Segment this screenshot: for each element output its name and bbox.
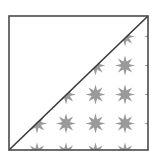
star-icon — [115, 114, 135, 134]
star-icon — [86, 114, 106, 134]
star-icon — [56, 114, 76, 134]
star-icon — [86, 85, 106, 105]
star-icon — [115, 85, 135, 105]
star-icon — [115, 56, 135, 76]
split-square-star-diagram — [0, 0, 161, 163]
